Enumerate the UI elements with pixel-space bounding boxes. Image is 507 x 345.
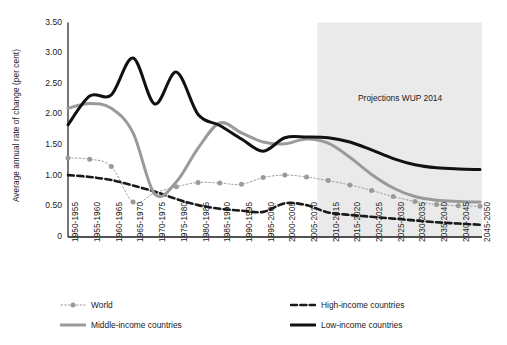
legend-swatch-low-income [290,320,316,330]
chart-legend: WorldHigh-income countriesMiddle-income … [0,300,507,345]
x-axis-tick-label: 2035-2040 [440,202,449,242]
legend-label: World [91,300,113,310]
plot-area [0,0,507,300]
x-axis-tick-label: 2025-2030 [397,202,406,242]
x-axis-tick-label: 2010-2015 [332,202,341,242]
x-axis-tick-label: 2040-2045 [462,202,471,242]
series-marker [87,157,92,162]
legend-item-world[interactable]: World [60,300,113,310]
x-axis-tick-label: 1980-1985 [202,202,211,242]
legend-item-middle-income[interactable]: Middle-income countries [60,320,182,330]
x-axis-tick-label: 1955-1960 [93,202,102,242]
x-axis-tick-label: 2045-2050 [483,202,492,242]
projections-annotation: Projections WUP 2014 [358,93,442,103]
legend-label: Low-income countries [321,320,402,330]
x-axis-tick-label: 1965-1970 [136,202,145,242]
chart-figure: Average annual rate of change (per cent)… [0,0,507,345]
x-axis-tick-label: 1985-1990 [223,202,232,242]
series-marker [478,204,483,209]
x-axis-tick-label: 1960-1965 [115,202,124,242]
x-axis-tick-label: 2000-2005 [288,202,297,242]
x-axis-tick-label: 2020-2025 [375,202,384,242]
series-marker [239,182,244,187]
x-axis-tick-label: 1970-1975 [158,202,167,242]
legend-swatch-world [60,300,86,310]
series-marker [347,182,352,187]
series-marker [217,181,222,186]
x-axis-tick-label: 1975-1980 [180,202,189,242]
legend-swatch-high-income [290,300,316,310]
legend-swatch-middle-income [60,320,86,330]
x-axis-tick-label: 2030-2035 [418,202,427,242]
series-marker [261,175,266,180]
legend-label: Middle-income countries [91,320,182,330]
legend-label: High-income countries [321,300,404,310]
series-marker [369,188,374,193]
series-marker [326,178,331,183]
legend-item-low-income[interactable]: Low-income countries [290,320,402,330]
x-axis-tick-label: 1990-1995 [245,202,254,242]
series-marker [109,164,114,169]
series-marker [456,203,461,208]
series-marker [412,199,417,204]
x-axis-tick-label: 1950-1955 [71,202,80,242]
series-marker [282,173,287,178]
x-axis-tick-label: 2015-2020 [353,202,362,242]
series-marker [434,202,439,207]
series-marker [131,200,136,205]
series-marker [391,194,396,199]
x-axis-tick-label: 2005-2010 [310,202,319,242]
legend-item-high-income[interactable]: High-income countries [290,300,404,310]
series-marker [304,174,309,179]
x-axis-tick-label: 1995-2000 [267,202,276,242]
series-marker [66,155,71,160]
series-marker [196,180,201,185]
